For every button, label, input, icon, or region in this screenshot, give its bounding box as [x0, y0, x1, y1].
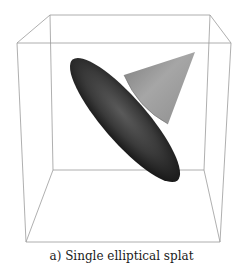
- cube-edge: [26, 170, 53, 242]
- figure-caption: a) Single elliptical splat: [0, 245, 243, 267]
- cube-edge: [210, 15, 231, 43]
- cube-edge: [17, 15, 50, 43]
- cube-edge: [204, 170, 220, 242]
- figure: [0, 0, 243, 245]
- scene-canvas: [0, 0, 243, 245]
